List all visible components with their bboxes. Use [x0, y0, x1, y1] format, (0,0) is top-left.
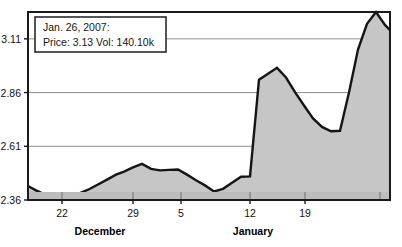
- y-axis-tick-label: 2.36: [1, 194, 22, 206]
- month-label: January: [233, 225, 273, 237]
- tooltip-date-line: Jan. 26, 2007:: [43, 21, 110, 33]
- x-axis-tick-label: 22: [56, 207, 68, 219]
- month-label: December: [75, 225, 126, 237]
- x-axis-tick-label: 12: [244, 207, 256, 219]
- chart-canvas: 2.362.612.863.11 222951219 DecemberJanua…: [0, 0, 402, 247]
- x-axis-tick-label: 19: [299, 207, 311, 219]
- y-axis-tick-label: 3.11: [1, 33, 21, 45]
- volume-strip: [28, 192, 390, 200]
- x-axis-tick-label: 29: [127, 207, 139, 219]
- y-axis-tick-label: 2.86: [1, 87, 22, 99]
- tooltip-price-volume-line: Price: 3.13 Vol: 140.10k: [43, 36, 155, 48]
- data-point-tooltip[interactable]: Jan. 26, 2007: Price: 3.13 Vol: 140.10k: [35, 17, 166, 52]
- x-axis-tick-label: 5: [178, 207, 184, 219]
- y-axis-tick-label: 2.61: [1, 140, 22, 152]
- stock-chart[interactable]: 2.362.612.863.11 222951219 DecemberJanua…: [0, 0, 402, 247]
